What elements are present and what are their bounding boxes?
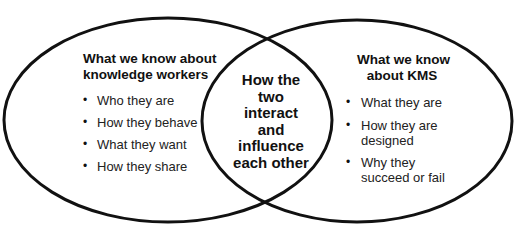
right-item: Why they xyxy=(361,155,415,170)
left-item: How they behave xyxy=(97,115,197,130)
venn-diagram: What we know about knowledge workers • W… xyxy=(0,0,531,234)
bullet-icon: • xyxy=(83,115,87,129)
intersection-line: and xyxy=(226,122,316,139)
right-item-continuation: designed xyxy=(361,133,414,148)
left-item: How they share xyxy=(97,159,187,174)
intersection-line: two xyxy=(226,89,316,106)
intersection-line: each other xyxy=(226,155,316,172)
bullet-icon: • xyxy=(346,155,350,169)
left-item: Who they are xyxy=(97,93,174,108)
left-item: What they want xyxy=(97,137,187,152)
intersection-line: How the xyxy=(226,72,316,89)
right-title-line-2: about KMS xyxy=(357,68,447,84)
bullet-icon: • xyxy=(83,137,87,151)
left-title-line-1: What we know about xyxy=(83,51,217,67)
right-item: What they are xyxy=(361,95,442,110)
bullet-icon: • xyxy=(83,93,87,107)
bullet-icon: • xyxy=(83,159,87,173)
right-item: How they are xyxy=(361,118,438,133)
intersection-line: influence xyxy=(226,138,316,155)
right-title-line-1: What we know xyxy=(357,52,447,68)
bullet-icon: • xyxy=(346,95,350,109)
bullet-icon: • xyxy=(346,118,350,132)
intersection-text: How the two interact and influence each … xyxy=(226,72,316,171)
right-item-continuation: succeed or fail xyxy=(361,170,445,185)
intersection-line: interact xyxy=(226,105,316,122)
left-title-line-2: knowledge workers xyxy=(83,67,208,83)
